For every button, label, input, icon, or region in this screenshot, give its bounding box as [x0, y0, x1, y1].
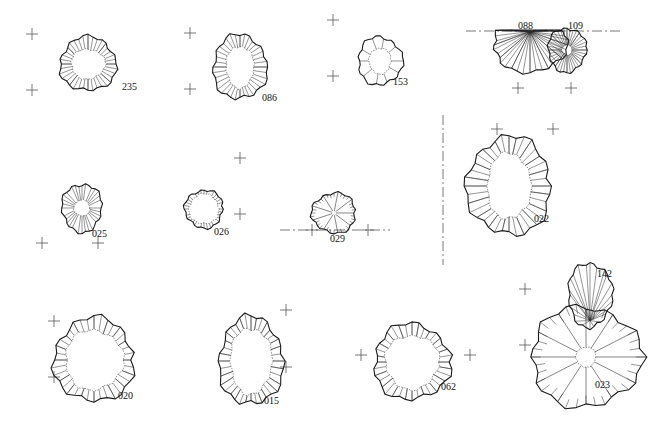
feature-inner-edge — [230, 328, 274, 395]
feature-outline — [59, 34, 118, 91]
crosshair-marker — [48, 315, 60, 327]
crosshair-marker — [355, 349, 367, 361]
feature-inner-edge — [384, 335, 439, 391]
crosshair-marker — [327, 14, 339, 26]
feature-label: 015 — [264, 395, 279, 406]
crosshair-marker — [234, 208, 246, 220]
crosshair-marker — [26, 84, 38, 96]
feature-outline — [183, 190, 223, 230]
crosshair-marker — [362, 224, 374, 236]
crosshair-marker — [26, 28, 38, 40]
crosshair-marker — [327, 70, 339, 82]
feature-029: 029 — [310, 192, 356, 244]
crosshair-marker — [36, 237, 48, 249]
feature-inner-edge — [188, 193, 219, 223]
crosshair-marker — [280, 361, 292, 373]
feature-label: 088 — [518, 20, 533, 31]
archaeological-plan-drawing: 2350861530881090250260290220200150620231… — [0, 0, 662, 431]
feature-inner-edge — [74, 200, 90, 217]
feature-142: 142 — [568, 263, 614, 330]
feature-153: 153 — [358, 36, 408, 87]
feature-022: 022 — [464, 135, 551, 237]
crosshair-marker — [234, 152, 246, 164]
crosshair-marker — [491, 123, 503, 135]
feature-label: 086 — [262, 92, 277, 103]
features: 2350861530881090250260290220200150620231… — [51, 20, 647, 409]
feature-outline — [493, 30, 569, 74]
feature-label: 020 — [118, 390, 133, 401]
feature-label: 153 — [393, 76, 408, 87]
feature-inner-edge — [66, 329, 125, 392]
crosshair-marker — [280, 304, 292, 316]
feature-label: 142 — [597, 268, 612, 279]
crosshair-marker — [565, 82, 577, 94]
feature-label: 109 — [568, 20, 583, 31]
feature-025: 025 — [61, 184, 107, 239]
feature-088: 088 — [493, 20, 569, 74]
crosshair-marker — [306, 224, 318, 236]
feature-inner-edge — [368, 48, 391, 75]
crosshair-marker — [519, 339, 531, 351]
feature-label: 062 — [441, 381, 456, 392]
feature-086: 086 — [213, 34, 277, 103]
feature-015: 015 — [218, 313, 285, 406]
feature-inner-edge — [226, 46, 255, 89]
crosshair-marker — [184, 27, 196, 39]
feature-inner-edge — [71, 49, 107, 80]
feature-label: 022 — [534, 213, 549, 224]
crosshair-marker — [464, 349, 476, 361]
feature-outline — [51, 314, 135, 402]
crosshair-marker — [512, 82, 524, 94]
feature-020: 020 — [51, 314, 135, 402]
feature-outline — [218, 313, 285, 404]
feature-label: 235 — [122, 81, 137, 92]
crosshair-marker — [48, 371, 60, 383]
feature-inner-edge — [575, 347, 596, 367]
feature-062: 062 — [374, 322, 456, 401]
feature-label: 025 — [92, 228, 107, 239]
feature-label: 023 — [595, 379, 610, 390]
crosshair-marker — [547, 123, 559, 135]
feature-label: 029 — [330, 233, 345, 244]
section-lines — [280, 31, 622, 265]
grid-crosshairs — [26, 14, 577, 383]
feature-label: 026 — [214, 226, 229, 237]
feature-026: 026 — [183, 190, 229, 237]
feature-inner-edge — [487, 152, 533, 220]
crosshair-marker — [184, 83, 196, 95]
crosshair-marker — [519, 283, 531, 295]
feature-235: 235 — [59, 34, 137, 92]
